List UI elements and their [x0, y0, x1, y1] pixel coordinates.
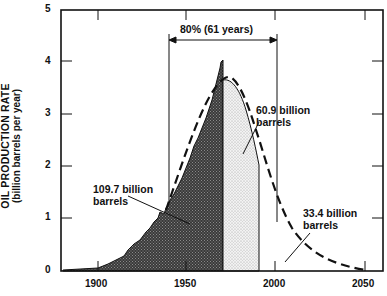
- reserves-volume-label: 60.9 billion barrels: [256, 104, 310, 128]
- reserves-volume-line1: 60.9 billion: [256, 104, 310, 116]
- future-volume-line2: barrels: [303, 219, 357, 231]
- reserves-area: [223, 80, 259, 271]
- historical-volume-label: 109.7 billion barrels: [93, 183, 153, 207]
- y-tick-5: 5: [45, 3, 51, 14]
- future-volume-label: 33.4 billion barrels: [303, 207, 357, 231]
- future-volume-line1: 33.4 billion: [303, 207, 357, 219]
- y-tick-1: 1: [45, 211, 51, 222]
- historical-production-area: [63, 60, 223, 271]
- y-axis-subtitle: (billion barrels per year): [11, 11, 23, 281]
- x-tick-2050: 2050: [352, 278, 374, 289]
- y-axis-label: OIL PRODUCTION RATE (billion barrels per…: [0, 11, 35, 281]
- oil-production-chart: [0, 0, 387, 296]
- y-tick-4: 4: [45, 55, 51, 66]
- historical-volume-line1: 109.7 billion: [93, 183, 153, 195]
- historical-volume-line2: barrels: [93, 195, 153, 207]
- y-tick-0: 0: [45, 264, 51, 275]
- x-tick-1900: 1900: [85, 278, 107, 289]
- x-tick-2000: 2000: [263, 278, 285, 289]
- reserves-volume-line2: barrels: [256, 116, 310, 128]
- x-tick-1950: 1950: [174, 278, 196, 289]
- y-axis-title: OIL PRODUCTION RATE: [0, 11, 11, 281]
- y-tick-3: 3: [45, 107, 51, 118]
- bracket-label: 80% (61 years): [180, 23, 253, 35]
- y-tick-2: 2: [45, 159, 51, 170]
